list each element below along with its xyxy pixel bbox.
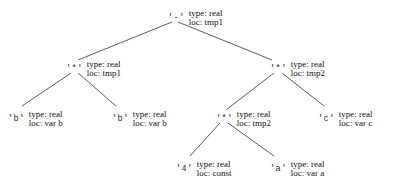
tree-edge xyxy=(178,22,272,60)
tree-node: '4'type: realloc: const xyxy=(176,160,232,178)
node-loc-attribute: loc: tmp1 xyxy=(87,69,121,78)
node-symbol: '*' xyxy=(66,65,87,74)
node-symbol: 'b' xyxy=(8,115,29,124)
tree-node: 'b'type: realloc: var b xyxy=(112,110,167,128)
node-loc-attribute: loc: const xyxy=(197,169,232,178)
node-attributes: type: realloc: var b xyxy=(133,110,167,128)
tree-node: '*'type: realloc: tmp1 xyxy=(66,60,121,78)
node-symbol: '*' xyxy=(216,115,237,124)
node-symbol: '-' xyxy=(168,14,189,23)
node-attributes: type: realloc: tmp2 xyxy=(237,110,271,128)
node-attributes: type: realloc: tmp2 xyxy=(291,60,325,78)
node-loc-attribute: loc: tmp2 xyxy=(291,69,325,78)
tree-node: 'c'type: realloc: var c xyxy=(318,110,373,128)
node-attributes: type: realloc: var b xyxy=(29,110,63,128)
tree-node: '-'type: realloc: tmp1 xyxy=(168,9,223,27)
node-symbol: 'b' xyxy=(112,115,133,124)
syntax-tree-diagram: '-'type: realloc: tmp1'*'type: realloc: … xyxy=(0,0,398,189)
node-loc-attribute: loc: var a xyxy=(291,169,325,178)
node-loc-attribute: loc: var b xyxy=(29,119,63,128)
tree-node: '*'type: realloc: tmp2 xyxy=(270,60,325,78)
node-symbol: '4' xyxy=(176,165,197,174)
node-attributes: type: realloc: var c xyxy=(339,110,373,128)
node-symbol: 'a' xyxy=(270,165,291,174)
node-attributes: type: realloc: tmp1 xyxy=(189,9,223,27)
node-loc-attribute: loc: var c xyxy=(339,119,373,128)
tree-node: 'a'type: realloc: var a xyxy=(270,160,325,178)
node-symbol: 'c' xyxy=(318,115,339,124)
tree-edge xyxy=(22,73,71,106)
tree-edge xyxy=(78,22,172,60)
node-symbol: '*' xyxy=(270,65,291,74)
node-loc-attribute: loc: var b xyxy=(133,119,167,128)
tree-node: '*'type: realloc: tmp2 xyxy=(216,110,271,128)
node-loc-attribute: loc: tmp2 xyxy=(237,119,271,128)
tree-edge xyxy=(226,73,274,110)
node-attributes: type: realloc: var a xyxy=(291,160,325,178)
tree-node: 'b'type: realloc: var b xyxy=(8,110,63,128)
node-attributes: type: realloc: tmp1 xyxy=(87,60,121,78)
node-loc-attribute: loc: tmp1 xyxy=(189,18,223,27)
node-attributes: type: realloc: const xyxy=(197,160,232,178)
